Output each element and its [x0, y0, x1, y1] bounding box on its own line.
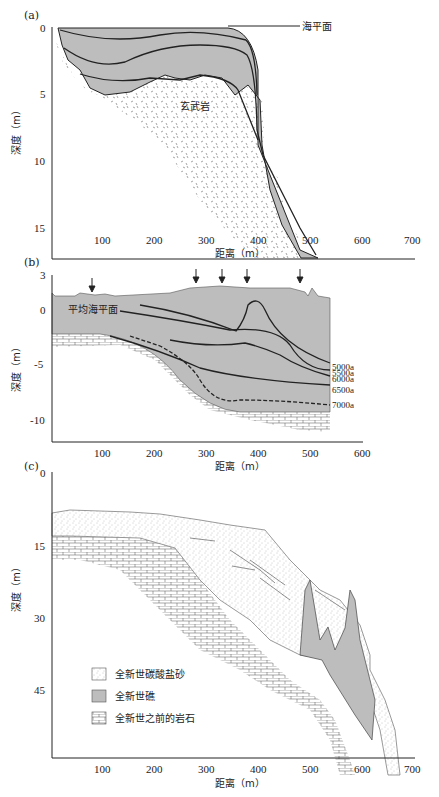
svg-text:-5: -5 [34, 358, 44, 370]
sea-level-label: 海平面 [302, 20, 332, 32]
basalt-label: 玄武岩 [180, 100, 210, 112]
x-axis-label-a: 距离（m） [215, 247, 265, 259]
svg-text:6500a: 6500a [332, 385, 354, 395]
svg-text:全新世之前的岩石: 全新世之前的岩石 [115, 712, 195, 724]
svg-text:500: 500 [302, 447, 319, 459]
svg-text:600: 600 [354, 234, 371, 246]
panel-c-label: (c) [24, 460, 39, 473]
legend-swatch-sand [92, 668, 106, 680]
svg-text:100: 100 [94, 447, 111, 459]
svg-text:0: 0 [40, 467, 46, 479]
svg-text:0: 0 [40, 304, 46, 316]
svg-text:200: 200 [146, 447, 163, 459]
reef-cross-section-figure: (a) 海平面 玄武岩 0 5 10 15 深度（m） 100 200 300 … [0, 0, 439, 797]
legend: 全新世碳酸盐砂 全新世礁 全新世之前的岩石 [92, 668, 195, 724]
svg-text:300: 300 [198, 763, 215, 775]
panel-b: (b) 平均海平面 5000a 5500a 6000a 6500a 7000a … [10, 256, 371, 472]
msl-label: 平均海平面 [68, 303, 118, 315]
panel-a: (a) 海平面 玄武岩 0 5 10 15 深度（m） 100 200 300 … [10, 9, 421, 259]
panel-b-label: (b) [24, 256, 40, 269]
svg-text:500: 500 [302, 763, 319, 775]
svg-text:300: 300 [198, 234, 215, 246]
svg-text:400: 400 [250, 763, 267, 775]
legend-swatch-reef [92, 690, 106, 702]
x-axis-label-b: 距离（m） [215, 460, 265, 472]
svg-text:3: 3 [40, 269, 46, 281]
svg-text:15: 15 [34, 222, 46, 234]
svg-text:400: 400 [250, 447, 267, 459]
svg-text:全新世礁: 全新世礁 [115, 690, 155, 702]
svg-text:6000a: 6000a [332, 374, 354, 384]
svg-text:200: 200 [146, 763, 163, 775]
y-axis-label-b: 深度（m） [10, 342, 22, 392]
svg-text:700: 700 [404, 763, 421, 775]
svg-text:100: 100 [94, 234, 111, 246]
svg-text:45: 45 [34, 684, 46, 696]
x-axis-label-c: 距离（m） [215, 777, 265, 789]
svg-text:100: 100 [94, 763, 111, 775]
y-axis-label-c: 深度（m） [10, 562, 22, 612]
svg-text:5: 5 [40, 88, 46, 100]
svg-text:700: 700 [404, 234, 421, 246]
svg-text:7000a: 7000a [332, 400, 354, 410]
svg-text:0: 0 [40, 22, 46, 34]
legend-swatch-bedrock [92, 712, 106, 724]
svg-text:30: 30 [34, 612, 46, 624]
svg-text:15: 15 [34, 540, 46, 552]
svg-text:400: 400 [250, 234, 267, 246]
svg-text:500: 500 [302, 234, 319, 246]
panel-c: (c) 全新世碳酸盐砂 全新世礁 全新世之前的岩石 0 15 30 [10, 460, 421, 789]
svg-text:300: 300 [198, 447, 215, 459]
svg-text:600: 600 [354, 447, 371, 459]
svg-text:全新世碳酸盐砂: 全新世碳酸盐砂 [115, 668, 185, 680]
svg-text:10: 10 [34, 155, 46, 167]
svg-text:600: 600 [354, 763, 371, 775]
y-axis-label-a: 深度（m） [10, 105, 22, 155]
svg-text:-10: -10 [30, 414, 45, 426]
panel-a-label: (a) [24, 9, 39, 22]
svg-text:200: 200 [146, 234, 163, 246]
